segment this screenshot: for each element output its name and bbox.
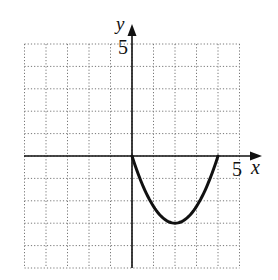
y-axis-arrow-icon bbox=[128, 24, 137, 36]
coordinate-plane: y 5 5 x bbox=[0, 0, 278, 280]
x-axis-label: x bbox=[250, 156, 260, 178]
x-tick-label: 5 bbox=[232, 158, 242, 180]
y-tick-label: 5 bbox=[118, 36, 128, 58]
y-axis-label: y bbox=[114, 13, 125, 34]
axes bbox=[24, 24, 262, 268]
